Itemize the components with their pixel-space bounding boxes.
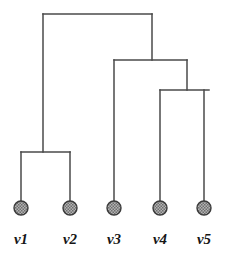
leaf-label-v3: v3 xyxy=(107,232,121,247)
leaf-nodes-group xyxy=(14,201,211,215)
leaf-node-v5[interactable] xyxy=(197,201,211,215)
leaf-node-v1[interactable] xyxy=(14,201,28,215)
leaf-label-v2: v2 xyxy=(63,232,77,247)
leaf-node-circle-v2[interactable] xyxy=(63,201,77,215)
leaf-node-circle-v3[interactable] xyxy=(107,201,121,215)
dendrogram-figure: v1v2v3v4v5 xyxy=(0,0,228,255)
leaf-node-circle-v1[interactable] xyxy=(14,201,28,215)
leaf-node-circle-v4[interactable] xyxy=(153,201,167,215)
leaf-label-v5: v5 xyxy=(197,232,211,247)
leaf-node-v4[interactable] xyxy=(153,201,167,215)
leaf-node-v3[interactable] xyxy=(107,201,121,215)
dendrogram-canvas xyxy=(0,0,228,255)
leaf-node-v2[interactable] xyxy=(63,201,77,215)
leaf-label-v4: v4 xyxy=(153,232,167,247)
leaf-node-circle-v5[interactable] xyxy=(197,201,211,215)
leaf-label-v1: v1 xyxy=(14,232,28,247)
tree-edges-group xyxy=(21,14,209,208)
